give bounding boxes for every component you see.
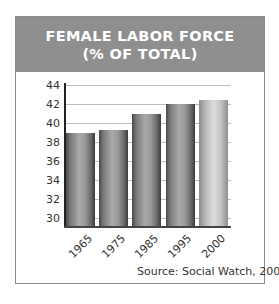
source-note: Source: Social Watch, 2003 <box>137 265 279 278</box>
x-tick-label: 1975 <box>99 232 128 261</box>
plot-area: 303234363840424419651975198519952000 <box>16 17 264 283</box>
bar-1965 <box>66 133 95 226</box>
y-tick-label: 38 <box>30 136 60 149</box>
x-axis <box>64 226 231 228</box>
x-tick-label: 1965 <box>66 232 95 261</box>
chart-frame: FEMALE LABOR FORCE (% OF TOTAL) 30323436… <box>15 16 265 284</box>
gridline <box>64 85 231 86</box>
bar-1985 <box>132 114 161 227</box>
x-tick-label: 1995 <box>166 232 195 261</box>
y-tick-label: 36 <box>30 155 60 168</box>
y-tick-label: 40 <box>30 117 60 130</box>
y-tick-label: 44 <box>30 79 60 92</box>
x-tick-label: 2000 <box>199 232 228 261</box>
bar-1975 <box>99 130 128 226</box>
x-tick-label: 1985 <box>132 232 161 261</box>
bar-2000 <box>199 100 228 226</box>
y-tick-label: 30 <box>30 212 60 225</box>
y-tick-label: 34 <box>30 174 60 187</box>
y-tick-label: 32 <box>30 193 60 206</box>
y-axis <box>64 83 66 228</box>
y-tick-label: 42 <box>30 98 60 111</box>
bar-1995 <box>166 104 195 226</box>
